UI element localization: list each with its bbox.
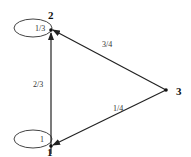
- node-3-label: 3: [176, 85, 182, 97]
- node-2-dot: [49, 28, 53, 32]
- self-loop-node-2-label: 1/3: [35, 24, 45, 33]
- markov-chain-diagram: 2 1 3 1/3 1 2/3 3/4 1/4: [0, 0, 191, 157]
- edge-3-to-2: [53, 30, 166, 90]
- edge-1-to-2-label: 2/3: [33, 80, 43, 89]
- edge-3-to-2-label: 3/4: [102, 40, 112, 49]
- self-loop-node-1-label: 1: [40, 135, 44, 144]
- edge-3-to-1: [53, 90, 166, 145]
- node-2-label: 2: [48, 9, 54, 21]
- node-1-label: 1: [47, 146, 53, 157]
- self-loop-node-2: [14, 19, 52, 37]
- edge-3-to-1-label: 1/4: [113, 104, 123, 113]
- node-3-dot: [164, 88, 168, 92]
